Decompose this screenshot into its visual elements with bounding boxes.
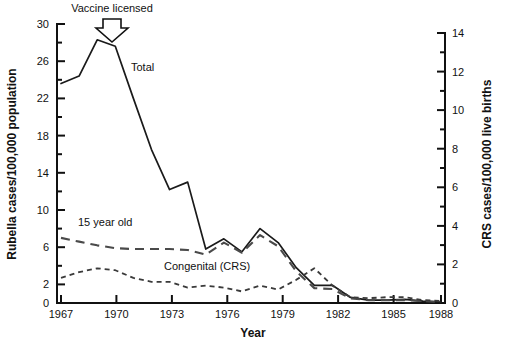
x-axis-title: Year [240,326,266,340]
x-tick-label: 1967 [49,308,73,320]
y-tick-label: 30 [37,18,49,30]
axes-group [57,24,445,303]
y2-tick-label: 10 [452,104,464,116]
y2-tick-label: 12 [452,66,464,78]
y-axis-title: Rubella cases/100,000 population [5,68,19,259]
series-line-congenital-crs [61,268,441,301]
x-tick-label: 1988 [429,308,453,320]
series-label-15-year-old: 15 year old [78,216,132,228]
y-tick-label: 6 [43,241,49,253]
x-axis-ticks [61,295,441,303]
y2-axis-title: CRS cases/100,000 live births [480,79,494,248]
y-tick-label: 2 [43,278,49,290]
chart-canvas: 0 2 6 10 14 18 22 26 30 [0,0,507,343]
vaccine-licensed-label: Vaccine licensed [71,2,153,14]
y-axis-left-major-ticks [57,24,65,303]
x-tick-label: 1985 [381,308,405,320]
y2-tick-label: 4 [452,220,458,232]
y-axis-right-tick-labels: 0 2 4 6 8 10 12 14 [452,27,464,309]
x-tick-label: 1973 [160,308,184,320]
x-tick-label: 1976 [215,308,239,320]
series-label-congenital-crs: Congenital (CRS) [164,260,250,272]
y2-tick-label: 14 [452,27,464,39]
y2-tick-label: 2 [452,258,458,270]
series-label-total: Total [131,61,154,73]
y2-tick-label: 6 [452,181,458,193]
rubella-crs-incidence-chart: 0 2 6 10 14 18 22 26 30 [0,0,507,343]
x-axis-tick-labels: 1967 1970 1973 1976 1979 1982 1985 1988 [49,308,453,320]
y-tick-label: 26 [37,55,49,67]
y2-tick-label: 8 [452,143,458,155]
y-axis-left-tick-labels: 0 2 6 10 14 18 22 26 30 [37,18,49,309]
series-line-15-year-old [61,235,441,302]
x-tick-label: 1982 [326,308,350,320]
down-arrow-icon [96,19,128,42]
y-tick-label: 22 [37,92,49,104]
y-tick-label: 14 [37,167,49,179]
series-line-total [61,40,441,302]
y-tick-label: 18 [37,130,49,142]
x-tick-label: 1970 [104,308,128,320]
x-tick-label: 1979 [270,308,294,320]
y-tick-label: 10 [37,204,49,216]
vaccine-licensed-annotation: Vaccine licensed [71,2,153,42]
